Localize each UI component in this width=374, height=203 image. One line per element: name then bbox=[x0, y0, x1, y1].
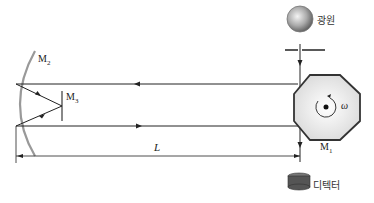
mirror-m2-label: M2 bbox=[38, 53, 50, 67]
mirror-m1-label: M1 bbox=[320, 141, 332, 155]
michelson-speed-of-light-diagram: 광원 디텍터 M2 M3 M1 L ω bbox=[0, 0, 374, 203]
detector-label: 디텍터 bbox=[313, 177, 340, 192]
light-source-label: 광원 bbox=[317, 12, 335, 27]
diagram-canvas bbox=[0, 0, 374, 203]
angular-velocity-label: ω bbox=[341, 100, 348, 111]
arrow-left-icon bbox=[134, 82, 140, 87]
arrow-right-icon bbox=[136, 124, 142, 129]
mirror-m3-label: M3 bbox=[66, 91, 78, 105]
light-source-icon bbox=[287, 6, 313, 32]
distance-label: L bbox=[154, 141, 160, 153]
curved-mirror-m2 bbox=[20, 51, 35, 156]
